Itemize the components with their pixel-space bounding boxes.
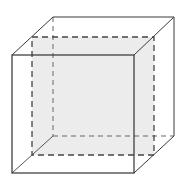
cube-diagram [0, 0, 188, 186]
